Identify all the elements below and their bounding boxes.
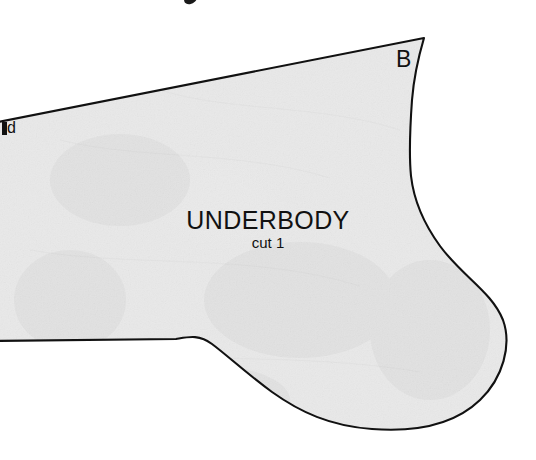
clipped-edge-label: d <box>2 119 16 137</box>
corner-notch-label-b: B <box>396 46 411 73</box>
piece-name-label: UNDERBODY <box>0 206 536 235</box>
cut-instruction-label: cut 1 <box>0 234 536 251</box>
clipped-edge-label-text: d <box>7 119 16 136</box>
